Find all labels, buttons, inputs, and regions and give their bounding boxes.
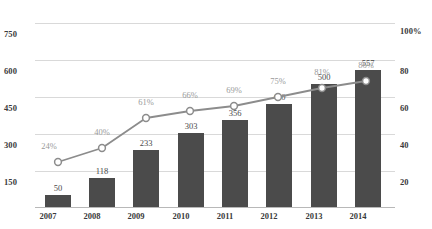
percent-label: 66% xyxy=(172,91,208,100)
y-axis-right-tick: 60 xyxy=(400,104,409,113)
bar-2014 xyxy=(355,70,381,207)
percent-label: 40% xyxy=(84,128,120,137)
bar-2008 xyxy=(89,178,115,207)
line-marker-2009 xyxy=(143,115,150,122)
bar-value-label: 233 xyxy=(126,139,166,148)
x-axis-tick-2014: 2014 xyxy=(338,211,378,221)
bar-2013 xyxy=(311,84,337,207)
percent-label: 24% xyxy=(31,142,67,151)
plot-area: 50 118 233 303 356 420 500 557 24% 40% 6… xyxy=(35,0,395,229)
y-axis-right-tick: 100% xyxy=(400,27,422,36)
x-axis-tick-2009: 2009 xyxy=(116,211,156,221)
bar-2007 xyxy=(45,195,71,207)
percent-label: 61% xyxy=(128,98,164,107)
y-axis-left-tick: 750 xyxy=(4,30,17,39)
bar-value-label: 420 xyxy=(259,93,299,102)
x-axis-tick-2011: 2011 xyxy=(205,211,245,221)
line-marker-2007 xyxy=(55,159,62,166)
percent-label: 86% xyxy=(348,61,384,70)
line-marker-2008 xyxy=(99,145,106,152)
percent-label: 69% xyxy=(216,86,252,95)
y-axis-left-tick: 450 xyxy=(4,104,17,113)
y-axis-right-tick: 20 xyxy=(400,178,409,187)
x-axis-tick-2013: 2013 xyxy=(294,211,334,221)
line-marker-2010 xyxy=(187,108,194,115)
bar-2012 xyxy=(266,104,292,207)
x-axis-tick-2008: 2008 xyxy=(72,211,112,221)
bar-value-label: 356 xyxy=(215,109,255,118)
y-axis-right-tick: 80 xyxy=(400,67,409,76)
y-axis-left-tick: 600 xyxy=(4,67,17,76)
x-axis-tick-2012: 2012 xyxy=(249,211,289,221)
percent-label: 75% xyxy=(260,77,296,86)
bar-2010 xyxy=(178,133,204,207)
y-axis-left-tick: 150 xyxy=(4,178,17,187)
y-axis-right-tick: 40 xyxy=(400,141,409,150)
gridline-750 xyxy=(35,23,395,24)
x-axis-tick-2007: 2007 xyxy=(28,211,68,221)
bar-2009 xyxy=(133,150,159,207)
bar-value-label: 50 xyxy=(38,184,78,193)
axis-baseline xyxy=(35,207,395,208)
gridline-600 xyxy=(35,60,395,61)
combo-chart: 50 118 233 303 356 420 500 557 24% 40% 6… xyxy=(0,0,432,229)
percent-label: 81% xyxy=(304,68,340,77)
bar-2011 xyxy=(222,120,248,207)
bar-value-label: 303 xyxy=(171,122,211,131)
y-axis-left-tick: 300 xyxy=(4,141,17,150)
bar-value-label: 118 xyxy=(82,167,122,176)
x-axis-tick-2010: 2010 xyxy=(161,211,201,221)
gridline-450 xyxy=(35,97,395,98)
